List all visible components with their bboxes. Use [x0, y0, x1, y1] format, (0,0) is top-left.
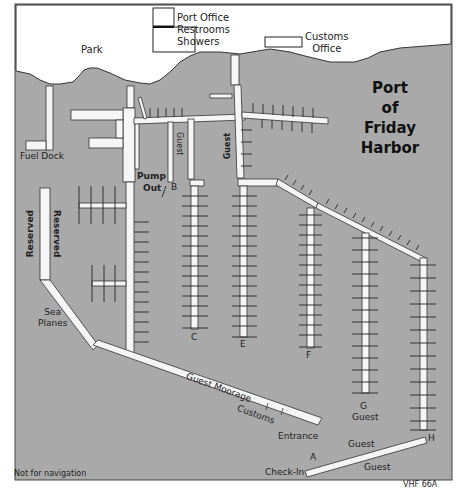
marina-map — [0, 0, 456, 502]
guest-a-upper-label: Guest — [348, 440, 374, 449]
guest-a-lower-label: Guest — [364, 463, 390, 472]
park-label: Park — [81, 45, 103, 55]
customs-office-label: Customs Office — [305, 31, 349, 55]
reserved-right-label: Reserved — [52, 210, 61, 257]
pier-c-label: C — [191, 333, 197, 342]
pier-h-label: H — [428, 434, 435, 443]
pier-g-label: G — [360, 402, 367, 411]
port-office-label: Port Office Restrooms Showers — [177, 12, 230, 48]
port-office-building — [153, 8, 174, 26]
fuel-dock-label: Fuel Dock — [20, 152, 64, 161]
sea-planes-label: Sea Planes — [38, 307, 67, 329]
pier-a-label: A — [310, 453, 316, 462]
pier-f-label: F — [306, 351, 311, 360]
check-in-label: Check-In — [265, 468, 304, 477]
map-title: Port of Friday Harbor — [352, 78, 428, 158]
reserved-left-label: Reserved — [26, 210, 35, 257]
pier-b-label: B — [171, 183, 177, 192]
guest-g-label: Guest — [352, 413, 378, 422]
customs-office-building — [265, 37, 302, 47]
guest-b-label: Guest — [175, 132, 183, 156]
guest-d-label: Guest — [224, 133, 232, 159]
not-for-navigation-note: Not for navigation — [14, 470, 86, 478]
vhf-channel-label: VHF 66A — [403, 481, 437, 489]
entrance-label: Entrance — [278, 432, 318, 441]
pier-e-label: E — [240, 340, 246, 349]
pump-out-label: Pump Out — [137, 170, 166, 194]
